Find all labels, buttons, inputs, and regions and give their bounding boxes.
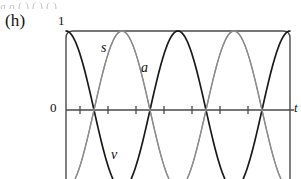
curve-s (66, 31, 290, 179)
plot-area (0, 0, 301, 179)
figure-panel-h: g q ( ) ( ) ( ) (h) 1 0 t s a v (0, 0, 301, 179)
curve-a (66, 31, 290, 179)
curve-label-displacement: s (101, 41, 106, 55)
curve-label-acceleration: a (141, 61, 148, 75)
curve-v (66, 31, 290, 179)
curve-label-velocity: v (111, 148, 117, 162)
curve-series-group (66, 31, 290, 179)
plot-frame (66, 31, 290, 179)
